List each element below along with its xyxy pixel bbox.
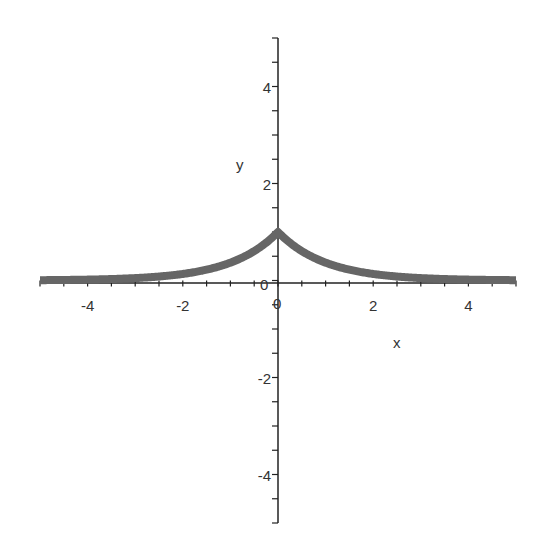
svg-text:-4: -4: [81, 297, 94, 314]
x-axis-label: x: [393, 334, 401, 351]
svg-text:-4: -4: [258, 467, 271, 484]
origin-label: 0: [260, 276, 268, 293]
svg-text:4: 4: [464, 297, 472, 314]
x-tick-labels: -4-2024: [81, 295, 473, 314]
y-axis-ticks: [272, 38, 278, 523]
svg-text:0: 0: [273, 295, 281, 312]
svg-text:2: 2: [369, 297, 377, 314]
svg-text:4: 4: [263, 79, 271, 96]
svg-text:-2: -2: [176, 297, 189, 314]
chart: -4-2024 -4-224 y x 0: [0, 0, 546, 547]
y-axis-label: y: [236, 156, 244, 173]
svg-text:2: 2: [263, 176, 271, 193]
svg-text:-2: -2: [258, 370, 271, 387]
